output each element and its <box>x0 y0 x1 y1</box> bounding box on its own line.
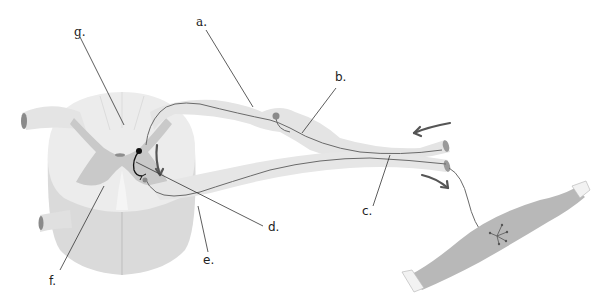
reflex-arc-diagram: g. a. b. c. d. e. f. <box>0 0 612 303</box>
label-g: g. <box>74 26 86 38</box>
label-f: f. <box>49 275 56 287</box>
label-e: e. <box>203 254 214 266</box>
arrow-outgoing-icon <box>422 175 448 188</box>
dorsal-root-and-ganglion <box>150 100 451 200</box>
label-a: a. <box>196 16 207 28</box>
label-c: c. <box>362 205 372 217</box>
label-b: b. <box>335 71 346 83</box>
label-d: d. <box>268 221 279 233</box>
effector-muscle <box>402 181 590 292</box>
